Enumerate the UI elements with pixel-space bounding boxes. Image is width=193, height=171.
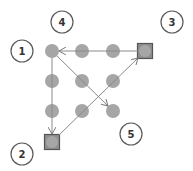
step-labels: 14352 (11, 11, 183, 165)
pattern-diagram: 14352 (0, 0, 193, 171)
step-label-1: 1 (11, 40, 33, 62)
step-label-4: 4 (51, 11, 73, 33)
grid-dot (45, 44, 59, 58)
label-number: 3 (169, 17, 176, 28)
grid-dot (106, 104, 120, 118)
label-number: 1 (19, 46, 26, 57)
square-node-top-right (138, 44, 153, 59)
diagram-svg: 14352 (0, 0, 193, 171)
step-label-2: 2 (11, 143, 33, 165)
label-number: 2 (19, 149, 26, 160)
step-label-5: 5 (120, 123, 142, 145)
grid-dot (106, 74, 120, 88)
label-number: 5 (128, 129, 135, 140)
arrows (52, 51, 138, 135)
step-label-3: 3 (161, 11, 183, 33)
label-number: 4 (59, 17, 66, 28)
grid-dot (75, 104, 89, 118)
arrow-line (57, 56, 108, 106)
square-node-bottom-left (45, 135, 60, 150)
